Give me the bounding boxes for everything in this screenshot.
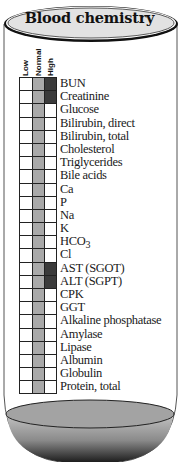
column-header-normal: Normal	[32, 44, 45, 76]
cell-high	[44, 143, 57, 156]
cell-high	[44, 196, 57, 209]
test-row: HCO3	[19, 235, 57, 248]
cell-high	[44, 156, 57, 169]
cell-high	[44, 328, 57, 341]
cell-normal	[32, 314, 45, 327]
cell-low	[19, 341, 32, 354]
cell-normal	[32, 169, 45, 182]
cell-high	[44, 209, 57, 222]
cell-high	[44, 77, 57, 90]
cell-low	[19, 222, 32, 235]
cell-high	[44, 354, 57, 367]
cell-high	[44, 222, 57, 235]
test-row: Bilirubin, total	[19, 130, 57, 143]
cell-high	[44, 367, 57, 380]
column-header-high: High	[44, 44, 57, 76]
cell-high	[44, 288, 57, 301]
test-row: Bile acids	[19, 169, 57, 182]
cell-normal	[32, 275, 45, 288]
cell-normal	[32, 183, 45, 196]
cell-high	[44, 248, 57, 261]
cell-high	[44, 235, 57, 248]
cell-normal	[32, 77, 45, 90]
test-row: Na	[19, 209, 57, 222]
test-row: ALT (SGPT)	[19, 275, 57, 288]
cell-normal	[32, 130, 45, 143]
cell-low	[19, 301, 32, 314]
cell-low	[19, 235, 32, 248]
chart-title: Blood chemistry	[0, 9, 179, 26]
cell-normal	[32, 301, 45, 314]
test-row: Glucose	[19, 103, 57, 116]
test-row: Alkaline phosphatase	[19, 314, 57, 327]
cell-normal	[32, 328, 45, 341]
cell-high	[44, 117, 57, 130]
cell-normal	[32, 354, 45, 367]
cell-high	[44, 90, 57, 103]
liquid-surface	[6, 400, 174, 428]
cell-high	[44, 341, 57, 354]
cell-low	[19, 117, 32, 130]
cell-low	[19, 183, 32, 196]
cell-normal	[32, 262, 45, 275]
test-label: Protein, total	[60, 378, 120, 394]
test-row: Triglycerides	[19, 156, 57, 169]
test-row: Protein, total	[19, 380, 57, 393]
cell-low	[19, 262, 32, 275]
cell-normal	[32, 117, 45, 130]
cell-high	[44, 183, 57, 196]
cell-low	[19, 354, 32, 367]
cell-normal	[32, 288, 45, 301]
cell-normal	[32, 209, 45, 222]
cell-normal	[32, 143, 45, 156]
test-row: CPK	[19, 288, 57, 301]
cell-normal	[32, 103, 45, 116]
test-row: Bilirubin, direct	[19, 117, 57, 130]
cell-low	[19, 314, 32, 327]
cell-high	[44, 169, 57, 182]
test-row: BUN	[19, 77, 57, 90]
cell-normal	[32, 380, 45, 393]
cell-high	[44, 130, 57, 143]
cell-high	[44, 314, 57, 327]
cell-normal	[32, 196, 45, 209]
cell-low	[19, 143, 32, 156]
cell-normal	[32, 156, 45, 169]
test-row: K	[19, 222, 57, 235]
column-header-low: Low	[19, 44, 32, 76]
cell-low	[19, 196, 32, 209]
cell-low	[19, 380, 32, 393]
cell-low	[19, 288, 32, 301]
test-row: Globulin	[19, 367, 57, 380]
test-row: P	[19, 196, 57, 209]
cell-low	[19, 90, 32, 103]
test-row: GGT	[19, 301, 57, 314]
cell-normal	[32, 222, 45, 235]
results-grid: BUNCreatinineGlucoseBilirubin, directBil…	[19, 77, 57, 394]
test-row: Lipase	[19, 341, 57, 354]
cell-low	[19, 77, 32, 90]
cell-normal	[32, 341, 45, 354]
cell-high	[44, 103, 57, 116]
cell-low	[19, 169, 32, 182]
cell-low	[19, 367, 32, 380]
cell-normal	[32, 90, 45, 103]
cell-low	[19, 130, 32, 143]
cell-high	[44, 380, 57, 393]
cell-low	[19, 156, 32, 169]
cell-low	[19, 248, 32, 261]
test-row: Cholesterol	[19, 143, 57, 156]
column-headers: Low Normal High	[19, 44, 59, 76]
test-row: Creatinine	[19, 90, 57, 103]
test-row: AST (SGOT)	[19, 262, 57, 275]
cell-normal	[32, 248, 45, 261]
cell-high	[44, 301, 57, 314]
cell-normal	[32, 367, 45, 380]
test-row: Albumin	[19, 354, 57, 367]
test-row: Amylase	[19, 328, 57, 341]
test-row: Cl	[19, 248, 57, 261]
cell-high	[44, 262, 57, 275]
cell-low	[19, 275, 32, 288]
cell-high	[44, 275, 57, 288]
cell-low	[19, 103, 32, 116]
